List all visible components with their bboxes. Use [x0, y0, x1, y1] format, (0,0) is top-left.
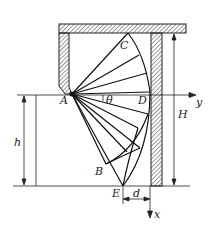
label-theta: θ	[106, 94, 113, 107]
arc-mid-3	[106, 148, 140, 164]
H-arrow-bottom-icon	[172, 179, 176, 185]
label-D: D	[137, 94, 147, 107]
pivot-A	[70, 92, 75, 97]
label-C: C	[120, 39, 129, 52]
link-fan	[72, 33, 150, 186]
mechanism-diagram: A B C D E θ h H d x y	[0, 0, 213, 231]
arc-C-D	[128, 33, 150, 92]
left-wall	[59, 33, 72, 94]
label-h: h	[14, 136, 21, 149]
label-x-axis: x	[154, 208, 161, 221]
d-arrow-right-icon	[144, 197, 150, 201]
y-axis-arrow-icon	[189, 93, 196, 98]
H-arrow-top-icon	[172, 34, 176, 40]
label-H: H	[177, 108, 188, 121]
arc-mid-1	[106, 114, 148, 164]
label-A: A	[59, 94, 68, 107]
d-arrow-left-icon	[123, 197, 129, 201]
x-axis-arrow-icon	[148, 211, 153, 218]
right-wall	[151, 33, 162, 186]
label-B: B	[94, 165, 103, 178]
label-E: E	[111, 187, 120, 200]
label-d: d	[133, 187, 140, 200]
axes	[13, 34, 196, 218]
h-arrow-top-icon	[22, 96, 26, 102]
h-arrow-bottom-icon	[22, 179, 26, 185]
label-y-axis: y	[195, 96, 203, 109]
top-wall	[59, 24, 186, 33]
